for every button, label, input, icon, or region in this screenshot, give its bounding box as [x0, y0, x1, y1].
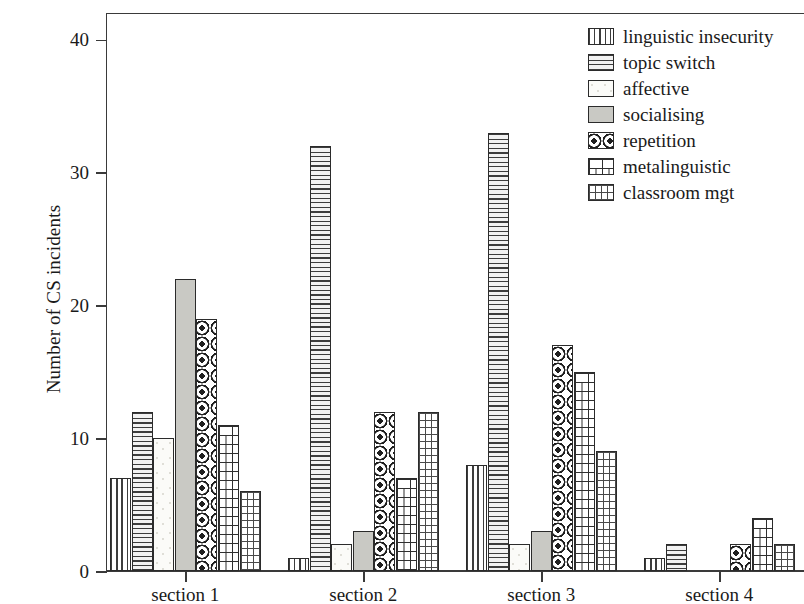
bar	[418, 412, 439, 571]
legend-swatch-icon	[588, 80, 614, 97]
legend-item: classroom mgt	[588, 180, 773, 205]
y-axis-title: Number of CS incidents	[43, 149, 65, 449]
legend-swatch-icon	[588, 28, 614, 45]
legend-swatch-icon	[588, 106, 614, 123]
bar	[531, 531, 552, 571]
bar	[240, 491, 261, 571]
bar	[509, 544, 530, 571]
legend: linguistic insecuritytopic switchaffecti…	[588, 24, 773, 205]
legend-swatch-icon	[588, 184, 614, 201]
y-tick-label: 10	[70, 428, 89, 450]
bar	[288, 558, 309, 571]
bar	[752, 518, 773, 571]
legend-item: topic switch	[588, 50, 773, 75]
x-tick-label-3: section 3	[507, 584, 575, 604]
y-tick-10: 10	[96, 438, 107, 440]
bar	[774, 544, 795, 571]
bar	[466, 465, 487, 571]
y-tick-40: 40	[96, 40, 107, 42]
legend-label: socialising	[623, 105, 704, 124]
bar	[310, 146, 331, 571]
x-tick-label-2: section 2	[329, 584, 397, 604]
x-tick-1	[185, 571, 187, 582]
legend-item: repetition	[588, 128, 773, 153]
bar	[331, 544, 352, 571]
x-tick-4	[719, 571, 721, 582]
legend-label: repetition	[623, 131, 696, 150]
bar	[132, 412, 153, 571]
bar	[644, 558, 665, 571]
y-tick-20: 20	[96, 305, 107, 307]
legend-label: topic switch	[623, 53, 715, 72]
bar	[730, 544, 751, 571]
y-tick-label: 30	[70, 162, 89, 184]
legend-swatch-icon	[588, 158, 614, 175]
bar	[353, 531, 374, 571]
legend-swatch-icon	[588, 54, 614, 71]
legend-label: metalinguistic	[623, 157, 731, 176]
legend-label: affective	[623, 79, 689, 98]
bar	[574, 372, 595, 571]
bar	[153, 438, 174, 571]
bar	[666, 544, 687, 571]
legend-item: linguistic insecurity	[588, 24, 773, 49]
bar	[218, 425, 239, 571]
legend-item: socialising	[588, 102, 773, 127]
legend-swatch-icon	[588, 132, 614, 149]
legend-item: metalinguistic	[588, 154, 773, 179]
bar	[552, 345, 573, 571]
bar	[374, 412, 395, 571]
legend-label: linguistic insecurity	[623, 27, 773, 46]
x-tick-2	[363, 571, 365, 582]
y-tick-label: 0	[80, 561, 90, 583]
legend-item: affective	[588, 76, 773, 101]
x-tick-label-1: section 1	[151, 584, 219, 604]
bar	[488, 133, 509, 571]
y-tick-label: 20	[70, 295, 89, 317]
y-tick-label: 40	[70, 29, 89, 51]
y-tick-0: 0	[96, 571, 107, 573]
bar-chart: Number of CS incidents 010203040 section…	[0, 0, 804, 604]
x-tick-label-4: section 4	[685, 584, 753, 604]
bar	[175, 279, 196, 571]
bar	[110, 478, 131, 571]
bar	[596, 451, 617, 571]
y-tick-30: 30	[96, 172, 107, 174]
bar	[396, 478, 417, 571]
legend-label: classroom mgt	[623, 183, 734, 202]
x-tick-3	[541, 571, 543, 582]
bar	[196, 319, 217, 571]
